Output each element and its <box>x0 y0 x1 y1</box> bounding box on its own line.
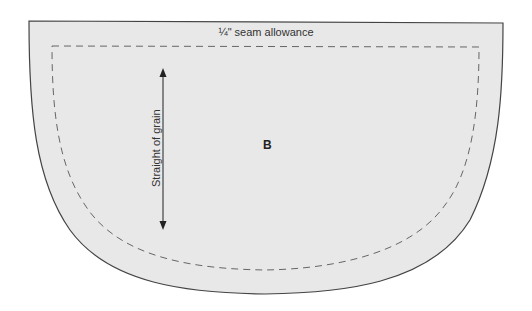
pattern-piece-drawing <box>0 0 532 311</box>
grainline-label: Straight of grain <box>150 109 162 187</box>
pattern-outline <box>29 21 503 294</box>
piece-label: B <box>263 138 272 152</box>
seam-allowance-label: ¼" seam allowance <box>0 26 532 38</box>
